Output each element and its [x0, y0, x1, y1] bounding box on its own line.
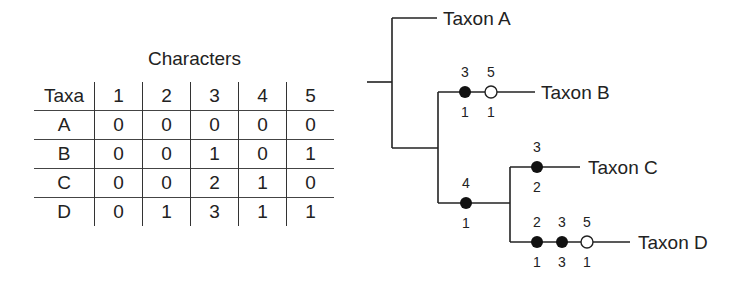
character-label: 3 [533, 139, 541, 155]
character-label: 5 [583, 214, 591, 230]
taxon-a-label: Taxon A [443, 8, 511, 29]
filled-change-marker [556, 236, 568, 248]
taxon-c-label: Taxon C [588, 157, 658, 178]
state-label: 1 [533, 254, 541, 270]
character-label: 3 [558, 214, 566, 230]
character-label: 4 [462, 175, 470, 191]
state-label: 1 [487, 104, 495, 120]
phylogenetic-tree: Taxon A Taxon B Taxon C Taxon D 3 1 5 1 … [0, 0, 751, 284]
open-change-marker [581, 236, 593, 248]
taxon-d-label: Taxon D [638, 232, 708, 253]
open-change-marker [485, 86, 497, 98]
state-label: 1 [462, 215, 470, 231]
filled-change-marker [459, 86, 471, 98]
tree-branches [367, 18, 630, 242]
filled-change-marker [531, 161, 543, 173]
state-label: 3 [558, 254, 566, 270]
taxon-b-label: Taxon B [541, 82, 610, 103]
character-label: 2 [533, 214, 541, 230]
character-label: 5 [487, 64, 495, 80]
filled-change-marker [460, 197, 472, 209]
state-label: 2 [533, 179, 541, 195]
character-label: 3 [461, 64, 469, 80]
state-label: 1 [583, 254, 591, 270]
state-label: 1 [461, 104, 469, 120]
filled-change-marker [531, 236, 543, 248]
